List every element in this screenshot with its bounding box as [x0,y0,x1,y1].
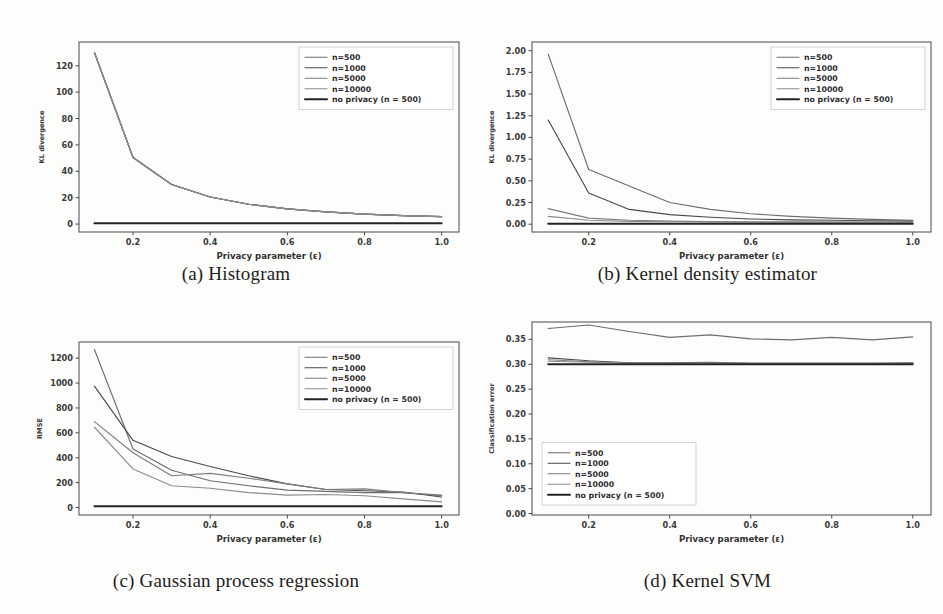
panel-d: 0.20.40.60.81.0Privacy parameter (ε)0.00… [472,307,943,614]
svg-text:0.6: 0.6 [280,237,295,247]
svg-text:200: 200 [56,478,73,488]
svg-text:1.75: 1.75 [506,67,527,77]
svg-text:120: 120 [56,61,73,71]
svg-text:1.0: 1.0 [906,520,921,530]
svg-text:Privacy parameter (ε): Privacy parameter (ε) [679,534,784,544]
chart-c: 0.20.40.60.81.0Privacy parameter (ε)0200… [0,307,472,569]
plot-area-c: 0.20.40.60.81.0Privacy parameter (ε)0200… [0,307,472,569]
svg-text:0.2: 0.2 [126,237,141,247]
figure-grid: 0.20.40.60.81.0Privacy parameter (ε)0204… [0,0,943,614]
svg-text:0.00: 0.00 [506,219,527,229]
svg-text:n=500: n=500 [332,53,361,62]
svg-text:0.2: 0.2 [581,520,596,530]
svg-text:1.0: 1.0 [434,520,449,530]
svg-text:KL divergence: KL divergence [38,110,46,163]
svg-text:0.35: 0.35 [506,334,527,344]
svg-text:1.50: 1.50 [506,89,527,99]
svg-text:n=10000: n=10000 [332,385,372,394]
svg-text:0.4: 0.4 [662,237,677,247]
svg-text:n=10000: n=10000 [575,480,615,489]
svg-text:0.4: 0.4 [662,520,677,530]
chart-legend: n=500n=1000n=5000n=10000no privacy (n = … [542,443,696,506]
svg-text:n=5000: n=5000 [332,74,366,83]
svg-text:n=5000: n=5000 [332,374,366,383]
svg-text:n=1000: n=1000 [575,459,609,468]
svg-text:n=500: n=500 [332,353,361,362]
svg-text:60: 60 [62,140,74,150]
svg-text:80: 80 [62,114,74,124]
svg-text:n=1000: n=1000 [332,64,366,73]
svg-text:n=5000: n=5000 [575,470,609,479]
panel-c: 0.20.40.60.81.0Privacy parameter (ε)0200… [0,307,472,614]
series-line-0 [548,325,913,340]
svg-text:0: 0 [67,219,73,229]
caption-b: (b) Kernel density estimator [472,263,943,285]
svg-text:1200: 1200 [50,353,73,363]
svg-text:0.25: 0.25 [506,198,527,208]
chart-a: 0.20.40.60.81.0Privacy parameter (ε)0204… [0,0,472,262]
svg-text:0.15: 0.15 [506,434,527,444]
svg-text:Privacy parameter (ε): Privacy parameter (ε) [216,534,321,544]
svg-text:0.25: 0.25 [506,384,527,394]
svg-text:n=1000: n=1000 [804,64,838,73]
svg-text:100: 100 [56,87,73,97]
svg-text:no privacy (n = 500): no privacy (n = 500) [804,95,893,104]
series-line-2 [94,422,441,495]
svg-text:0.2: 0.2 [581,237,596,247]
svg-text:0.2: 0.2 [126,520,141,530]
svg-text:RMSE: RMSE [36,418,44,439]
chart-legend: n=500n=1000n=5000n=10000no privacy (n = … [771,47,925,110]
svg-text:40: 40 [62,166,74,176]
svg-text:20: 20 [62,193,74,203]
panel-b: 0.20.40.60.81.0Privacy parameter (ε)0.00… [472,0,943,307]
svg-text:0.8: 0.8 [357,237,372,247]
svg-text:1.0: 1.0 [434,237,449,247]
chart-legend: n=500n=1000n=5000n=10000no privacy (n = … [299,47,453,110]
svg-text:1.0: 1.0 [906,237,921,247]
panel-a: 0.20.40.60.81.0Privacy parameter (ε)0204… [0,0,472,307]
svg-text:n=1000: n=1000 [332,364,366,373]
svg-text:0.6: 0.6 [743,520,758,530]
svg-text:0.10: 0.10 [506,459,527,469]
svg-text:800: 800 [56,403,73,413]
svg-text:no privacy (n = 500): no privacy (n = 500) [575,491,664,500]
svg-text:n=5000: n=5000 [804,74,838,83]
svg-text:Privacy parameter (ε): Privacy parameter (ε) [679,251,784,261]
svg-text:0.05: 0.05 [506,484,527,494]
svg-text:n=10000: n=10000 [332,85,372,94]
svg-text:400: 400 [56,453,73,463]
svg-text:0.20: 0.20 [506,409,527,419]
svg-text:0.4: 0.4 [203,237,218,247]
caption-c: (c) Gaussian process regression [0,570,472,592]
svg-text:0.8: 0.8 [357,520,372,530]
svg-text:KL divergence: KL divergence [488,110,496,163]
chart-d: 0.20.40.60.81.0Privacy parameter (ε)0.00… [472,307,943,569]
svg-text:2.00: 2.00 [506,46,527,56]
chart-legend: n=500n=1000n=5000n=10000no privacy (n = … [299,347,453,410]
svg-text:0.75: 0.75 [506,154,527,164]
svg-text:0.6: 0.6 [280,520,295,530]
svg-text:no privacy (n = 500): no privacy (n = 500) [332,395,421,404]
svg-text:Privacy parameter (ε): Privacy parameter (ε) [216,251,321,261]
svg-text:0.50: 0.50 [506,176,527,186]
svg-text:0.00: 0.00 [506,509,527,519]
svg-text:0.30: 0.30 [506,359,527,369]
plot-area-a: 0.20.40.60.81.0Privacy parameter (ε)0204… [0,0,472,262]
svg-text:0.4: 0.4 [203,520,218,530]
svg-text:Classification error: Classification error [488,382,496,453]
caption-a: (a) Histogram [0,263,472,285]
svg-text:1.25: 1.25 [506,111,527,121]
series-line-1 [548,120,913,221]
plot-area-b: 0.20.40.60.81.0Privacy parameter (ε)0.00… [472,0,943,262]
svg-text:0.8: 0.8 [824,520,839,530]
svg-text:0.8: 0.8 [824,237,839,247]
svg-text:n=500: n=500 [575,449,604,458]
svg-text:0: 0 [67,503,73,513]
svg-text:0.6: 0.6 [743,237,758,247]
svg-text:n=10000: n=10000 [804,85,844,94]
figure-page: 0.20.40.60.81.0Privacy parameter (ε)0204… [0,0,943,614]
caption-d: (d) Kernel SVM [472,570,943,592]
svg-text:n=500: n=500 [804,53,833,62]
svg-text:1.00: 1.00 [506,132,527,142]
svg-text:1000: 1000 [50,378,73,388]
